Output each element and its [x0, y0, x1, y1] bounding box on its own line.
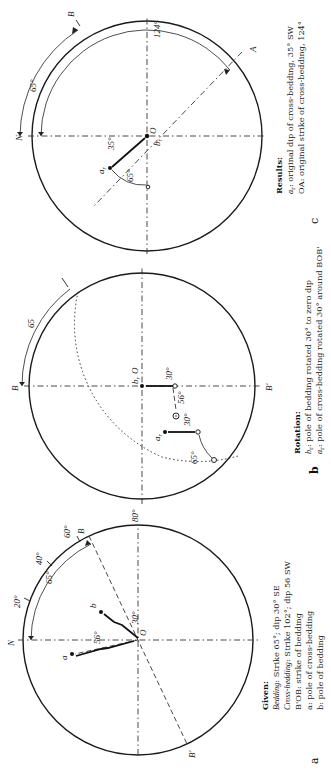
svg-text:a: pole of cross-bedding: a: pole of cross-bedding — [304, 611, 314, 710]
svg-text:Cross-bedding: Strike 102°; di: Cross-bedding: Strike 102°; dip 56 SW — [282, 560, 292, 710]
rot-arc-65 — [199, 435, 212, 458]
center-o-label: O — [130, 367, 140, 374]
caption-c: Results: ar: original dip of cross-beddi… — [274, 21, 306, 194]
a-label: A — [248, 46, 258, 53]
svg-text:Bedding: Strike 65°; dip 30° S: Bedding: Strike 65°; dip 30° SE — [271, 585, 281, 710]
svg-text:ar: original dip of cross-bedd: ar: original dip of cross-bedding, 35° S… — [285, 25, 296, 194]
pole-b-label: b — [88, 603, 98, 608]
strike-arc-label: 65° — [44, 571, 54, 584]
rot-30-a-label: 30° — [182, 413, 192, 427]
tick-60: 60° — [62, 525, 72, 538]
arc-124-c — [41, 30, 230, 136]
tick-20: 20° — [12, 595, 22, 608]
b-prime-label: B' — [187, 750, 197, 758]
stereonet-figure: N B B' 20° 40° 60° 80° 65° O a 56° b 30°… — [0, 0, 331, 772]
b-label: B — [66, 11, 76, 17]
rot-65-label: 65° — [189, 451, 199, 464]
panel-label-c: c — [308, 218, 321, 224]
ar-label: ar — [152, 434, 163, 442]
pole-a-label: a — [59, 655, 69, 660]
caption-b: Rotation: br: pole of bedding rotated 30… — [292, 247, 325, 454]
b-label: B — [76, 528, 86, 534]
b-label: B — [10, 385, 20, 391]
panel-label-a: a — [308, 757, 321, 764]
svg-text:Given:: Given: — [260, 681, 270, 710]
center-o-label: O — [138, 629, 148, 636]
br-label: br — [130, 377, 141, 385]
svg-text:Rotation:: Rotation: — [292, 411, 302, 454]
b-prime-label: B' — [264, 383, 274, 391]
panel-label-b: b — [308, 466, 321, 474]
panel-c: N B 65° 124° A O br ar 35° 65° c Results… — [14, 11, 321, 254]
svg-text:B'OB: strike of bedding: B'OB: strike of bedding — [293, 613, 303, 710]
svg-text:br: pole of bedding rotated 30: br: pole of bedding rotated 30° to zero … — [303, 280, 314, 454]
north-label: N — [14, 134, 24, 142]
rot-65-label: 65° — [125, 169, 135, 182]
dip-35-label: 35° — [106, 137, 116, 151]
svg-text:Results:: Results: — [274, 157, 284, 194]
north-label: N — [6, 639, 16, 647]
center-o-label: O — [148, 127, 158, 134]
strike-line-oa — [94, 52, 242, 206]
caption-a: Given: Bedding: Strike 65°; dip 30° SE C… — [260, 560, 325, 710]
dip-56-label: 56° — [92, 631, 102, 644]
dip-56-label: 56° — [176, 391, 186, 404]
svg-text:OA: original strike of cross-b: OA: original strike of cross-bedding, 12… — [296, 21, 306, 194]
arc-65-label: 65 — [26, 319, 36, 329]
panel-b: B B' 65 br O 30° 56° ar 30° 65° b — [10, 247, 325, 504]
arc-124-label: 124° — [152, 21, 162, 39]
arc-65-label: 65° — [28, 79, 38, 92]
arc-65-b — [22, 289, 70, 386]
dip-30-label: 30° — [130, 611, 140, 625]
tick-80: 80° — [130, 509, 140, 522]
svg-text:b: pole of bedding: b: pole of bedding — [315, 635, 325, 710]
ar-label: ar — [96, 167, 107, 175]
br-label: br — [152, 139, 163, 147]
svg-text:ar: pole of cross-bedding rota: ar: pole of cross-bedding rotated 30° ar… — [314, 247, 325, 454]
panel-a: N B B' 20° 40° 60° 80° 65° O a 56° b 30°… — [6, 509, 325, 764]
tick-40: 40° — [34, 552, 44, 565]
rot-30-b-label: 30° — [164, 367, 174, 381]
